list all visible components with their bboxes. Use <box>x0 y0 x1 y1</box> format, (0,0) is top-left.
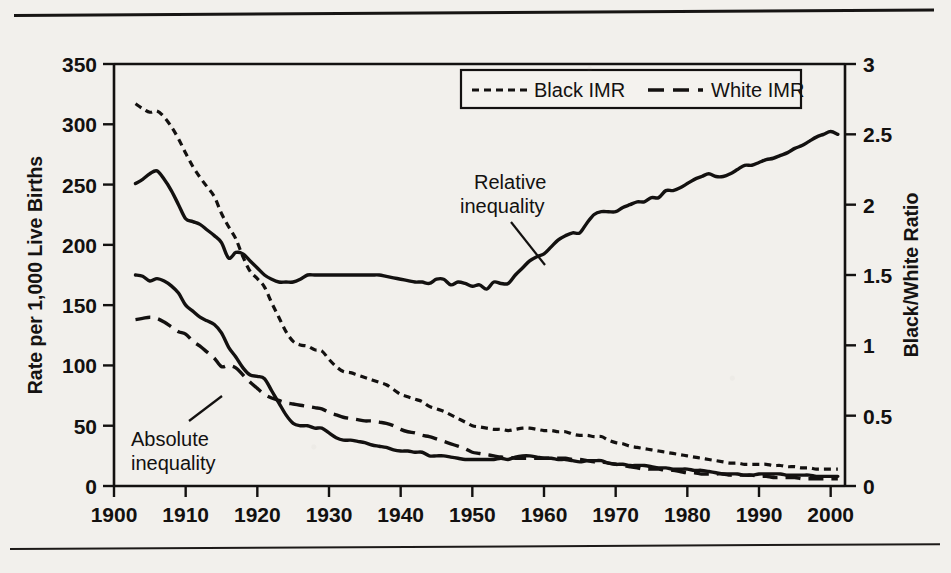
absolute-inequality-leader-line <box>189 396 222 421</box>
y2-tick-label: 0.5 <box>863 405 893 428</box>
data-series-layer <box>136 104 838 479</box>
absolute-inequality-label-line1: Absolute <box>131 428 209 450</box>
chart-canvas: 050100150200250300350 00.511.522.53 1900… <box>0 0 951 573</box>
x-tick-label: 1910 <box>162 503 209 526</box>
y2-tick-label: 1.5 <box>863 264 893 287</box>
right-axis-tick-labels: 00.511.522.53 <box>863 53 893 498</box>
series-black-imr <box>136 104 838 469</box>
y-tick-label: 50 <box>74 415 97 438</box>
y2-axis-title: Black/White Ratio <box>900 193 922 358</box>
relative-inequality-label-line2: inequality <box>460 195 545 217</box>
legend[interactable]: Black IMR White IMR <box>461 70 804 108</box>
y-tick-label: 200 <box>62 234 97 257</box>
y-tick-label: 100 <box>62 354 97 377</box>
x-tick-label: 1930 <box>306 503 353 526</box>
left-axis-ticks <box>103 64 114 486</box>
y-tick-label: 250 <box>62 174 97 197</box>
legend-label-black-imr: Black IMR <box>534 79 625 101</box>
x-axis-ticks <box>114 486 831 497</box>
y-tick-label: 150 <box>62 294 97 317</box>
y2-tick-label: 1 <box>863 334 875 357</box>
x-axis-tick-labels: 1900191019201930194019501960197019801990… <box>91 503 854 526</box>
figure-container: 050100150200250300350 00.511.522.53 1900… <box>0 0 951 573</box>
x-tick-label: 1950 <box>449 503 496 526</box>
relative-inequality-annotation: Relative inequality <box>460 171 546 265</box>
right-axis-ticks <box>845 64 856 486</box>
left-axis-tick-labels: 050100150200250300350 <box>62 53 97 498</box>
absolute-inequality-label-line2: inequality <box>131 452 216 474</box>
relative-inequality-leader-line <box>511 222 545 265</box>
x-tick-label: 1970 <box>592 503 639 526</box>
x-tick-label: 1940 <box>377 503 424 526</box>
x-tick-label: 1990 <box>736 503 783 526</box>
y2-tick-label: 3 <box>863 53 875 76</box>
y2-tick-label: 0 <box>863 475 875 498</box>
y2-tick-label: 2 <box>863 194 875 217</box>
x-tick-label: 1960 <box>521 503 568 526</box>
relative-inequality-label-line1: Relative <box>474 171 546 193</box>
x-tick-label: 1900 <box>91 503 138 526</box>
y-axis-title: Rate per 1,000 Live Births <box>24 156 46 395</box>
legend-label-white-imr: White IMR <box>711 79 804 101</box>
y-tick-label: 350 <box>62 53 97 76</box>
absolute-inequality-annotation: Absolute inequality <box>131 396 222 474</box>
y-tick-label: 0 <box>85 475 97 498</box>
x-tick-label: 2000 <box>807 503 854 526</box>
series-white-imr <box>136 317 838 479</box>
x-tick-label: 1980 <box>664 503 711 526</box>
x-tick-label: 1920 <box>234 503 281 526</box>
y2-tick-label: 2.5 <box>863 123 893 146</box>
y-tick-label: 300 <box>62 113 97 136</box>
series-absolute-inequality <box>136 275 838 476</box>
